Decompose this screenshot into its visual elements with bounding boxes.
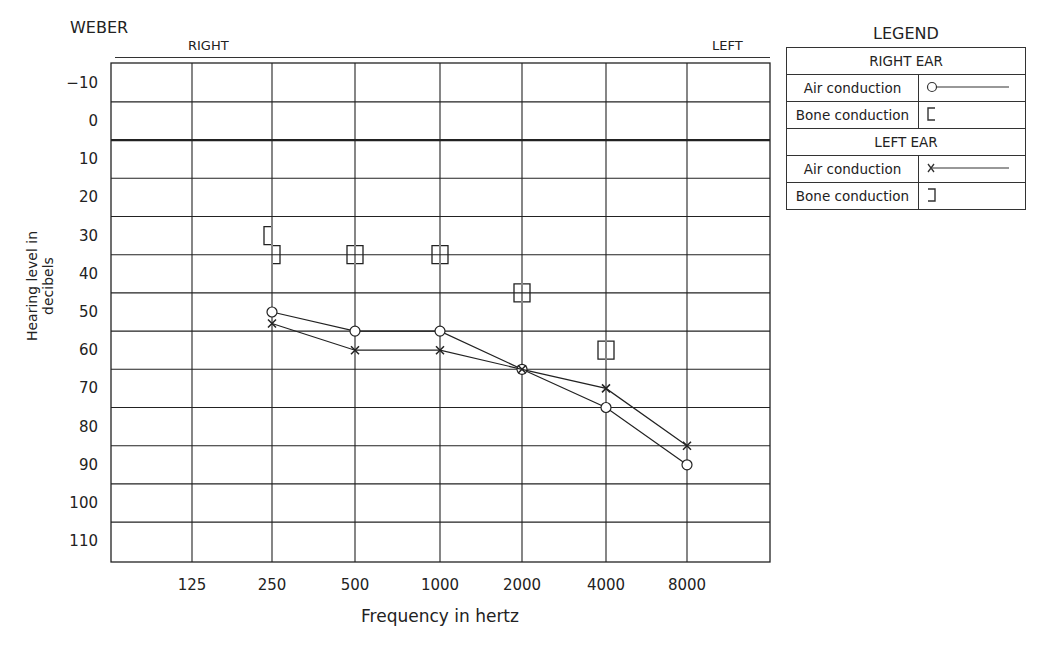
legend-title: LEGEND: [786, 24, 1026, 43]
legend-left-air-label: Air conduction: [787, 156, 919, 183]
left-bracket-marker-icon: [264, 227, 271, 245]
y-axis-label: Hearing level in decibels: [24, 206, 56, 366]
x-tick-label: 1000: [421, 576, 459, 594]
legend-right-bone-symbol: [919, 102, 1026, 129]
y-tick-label: 90: [79, 456, 98, 474]
x-tick-label: 250: [258, 576, 287, 594]
grid: [111, 63, 770, 562]
y-axis-ticks: −100102030405060708090100110: [66, 74, 98, 550]
x-tick-label: 8000: [668, 576, 706, 594]
x-tick-label: 500: [341, 576, 370, 594]
x-axis-ticks: 1252505001000200040008000: [178, 576, 706, 594]
left-bracket-icon: [921, 106, 1021, 122]
legend-right-ear-header: RIGHT EAR: [787, 48, 1026, 75]
circle-marker-icon: [601, 403, 611, 413]
data-series: [264, 227, 692, 470]
legend-left-bone-symbol: [919, 183, 1026, 210]
legend-left-bone-label: Bone conduction: [787, 183, 919, 210]
circle-marker-icon: [267, 307, 277, 317]
x-tick-label: 4000: [587, 576, 625, 594]
y-tick-label: 50: [79, 303, 98, 321]
right-bracket-marker-icon: [607, 341, 614, 359]
circle-marker-icon: [682, 460, 692, 470]
circle-marker-icon: [350, 326, 360, 336]
y-tick-label: −10: [66, 74, 98, 92]
legend-left-air-symbol: [919, 156, 1026, 183]
y-tick-label: 10: [79, 150, 98, 168]
x-tick-label: 125: [178, 576, 207, 594]
y-tick-label: 60: [79, 341, 98, 359]
circle-marker-icon: [435, 326, 445, 336]
y-tick-label: 20: [79, 188, 98, 206]
y-tick-label: 30: [79, 227, 98, 245]
legend: RIGHT EAR Air conduction Bone conduction…: [786, 47, 1026, 210]
circle-line-icon: [921, 80, 1021, 94]
y-tick-label: 100: [69, 494, 98, 512]
y-tick-label: 0: [88, 112, 98, 130]
y-tick-label: 40: [79, 265, 98, 283]
y-tick-label: 80: [79, 418, 98, 436]
legend-right-air-symbol: [919, 75, 1026, 102]
legend-right-bone-label: Bone conduction: [787, 102, 919, 129]
x-tick-label: 2000: [503, 576, 541, 594]
legend-left-ear-header: LEFT EAR: [787, 129, 1026, 156]
left-bracket-marker-icon: [598, 341, 605, 359]
right-bracket-icon: [921, 187, 1021, 203]
x-axis-label: Frequency in hertz: [340, 606, 540, 626]
x-line-icon: [921, 161, 1021, 175]
legend-right-air-label: Air conduction: [787, 75, 919, 102]
y-tick-label: 70: [79, 379, 98, 397]
y-tick-label: 110: [69, 532, 98, 550]
